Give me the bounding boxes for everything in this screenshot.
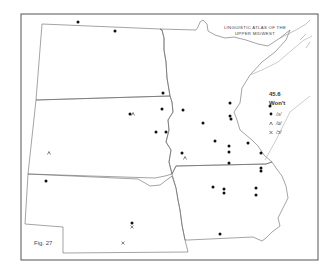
dot-marker bbox=[260, 152, 263, 155]
dot-marker bbox=[269, 105, 272, 108]
dot-marker bbox=[260, 167, 263, 170]
dot-marker bbox=[161, 108, 164, 111]
dot-marker bbox=[228, 145, 231, 148]
dot-marker bbox=[155, 131, 158, 134]
dot-marker bbox=[255, 187, 258, 190]
map-title-line1: LINGUISTIC ATLAS OF THE bbox=[224, 25, 286, 30]
legend-dot-icon bbox=[270, 113, 273, 116]
dot-marker bbox=[229, 115, 232, 118]
dot-marker bbox=[230, 118, 233, 121]
dot-marker bbox=[228, 151, 231, 154]
dot-marker bbox=[181, 152, 184, 155]
dot-marker bbox=[229, 102, 232, 105]
dot-marker bbox=[260, 170, 263, 173]
dot-marker bbox=[162, 92, 165, 95]
map-title-line2: UPPER MIDWEST bbox=[235, 31, 275, 36]
legend-dot-label: /ʌ/ bbox=[275, 111, 282, 117]
dot-marker bbox=[131, 222, 134, 225]
dot-marker bbox=[219, 233, 222, 236]
linguistic-atlas-map: LINGUISTIC ATLAS OF THE UPPER MIDWEST 45… bbox=[0, 0, 331, 278]
dot-marker bbox=[77, 21, 80, 24]
dot-marker bbox=[114, 30, 117, 33]
legend-item-number: 45.6 bbox=[269, 91, 281, 97]
legend-caret-label: /ɑ/ bbox=[275, 120, 282, 126]
figure-label: Fig. 27 bbox=[34, 240, 53, 246]
legend-cross-label: /ɔ/ bbox=[275, 129, 282, 135]
dot-marker bbox=[202, 122, 205, 125]
dot-marker bbox=[223, 192, 226, 195]
dot-marker bbox=[255, 194, 258, 197]
map-frame bbox=[21, 14, 318, 260]
dot-marker bbox=[165, 131, 168, 134]
dot-marker bbox=[214, 140, 217, 143]
dot-marker bbox=[247, 142, 250, 145]
dot-marker bbox=[129, 113, 132, 116]
legend-heading: Won't bbox=[269, 100, 285, 106]
dot-marker bbox=[45, 180, 48, 183]
dot-marker bbox=[228, 162, 231, 165]
dot-marker bbox=[182, 109, 185, 112]
dot-marker bbox=[223, 188, 226, 191]
dot-marker bbox=[212, 186, 215, 189]
